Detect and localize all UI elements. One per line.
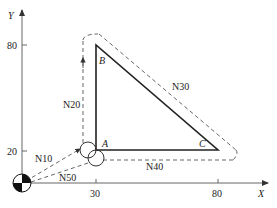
y-tick-label-80: 80 — [7, 40, 17, 51]
block-label-n40: N40 — [146, 161, 163, 172]
path-n30 — [99, 34, 236, 150]
path-n50 — [28, 163, 88, 183]
x-axis-label: X — [257, 188, 265, 199]
block-label-n20: N20 — [63, 99, 80, 110]
machine-origin-icon — [13, 174, 31, 192]
tool-path — [26, 34, 237, 183]
cnc-toolpath-diagram: 80 20 30 80 Y X — [0, 0, 277, 208]
path-corner-b — [83, 34, 98, 40]
x-tick-label-30: 30 — [90, 188, 100, 199]
y-axis-label: Y — [8, 10, 15, 21]
point-label-c: C — [199, 138, 206, 149]
x-tick-label-80: 80 — [212, 188, 222, 199]
block-label-n30: N30 — [172, 81, 189, 92]
path-corner-c — [233, 150, 237, 160]
block-label-n10: N10 — [35, 153, 52, 164]
point-label-b: B — [99, 55, 105, 66]
point-label-a: A — [101, 138, 109, 149]
block-label-n50: N50 — [59, 172, 76, 183]
y-tick-label-20: 20 — [7, 146, 17, 157]
part-triangle — [96, 45, 218, 150]
